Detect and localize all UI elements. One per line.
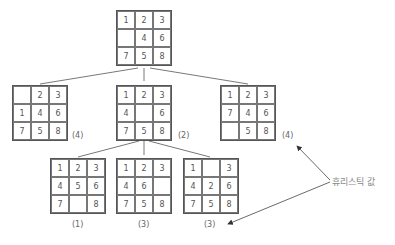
edge-root-to-right: [150, 68, 248, 84]
cell: 3: [220, 159, 238, 177]
cell: 6: [135, 177, 153, 195]
cell: 5: [135, 122, 153, 140]
cell: 6: [87, 177, 105, 195]
cell: 1: [117, 11, 135, 29]
heuristic-value: (3): [138, 220, 149, 229]
cell: [221, 122, 239, 140]
cell: 1: [184, 159, 202, 177]
cell: 5: [135, 195, 153, 213]
cell: 4: [117, 177, 135, 195]
cell: 7: [117, 195, 135, 213]
cell: 1: [51, 159, 69, 177]
heuristic-value: (1): [72, 220, 83, 229]
cell: 1: [221, 86, 239, 104]
cell: 2: [135, 159, 153, 177]
puzzle-level1-middle: 1 2 3 4 6 7 5 8: [116, 85, 172, 141]
puzzle-level2-middle: 1 2 3 4 6 7 5 8: [116, 158, 172, 214]
cell: 3: [49, 86, 67, 104]
edge-mid-to-right: [149, 141, 210, 157]
cell: 4: [184, 177, 202, 195]
cell: 8: [153, 122, 171, 140]
cell: 5: [239, 122, 257, 140]
cell: 3: [87, 159, 105, 177]
heuristic-value: (2): [178, 131, 189, 140]
cell: 7: [117, 122, 135, 140]
cell: 6: [257, 104, 275, 122]
heuristic-value: (4): [72, 131, 83, 140]
cell: [202, 159, 220, 177]
heuristic-value: (3): [204, 220, 215, 229]
cell: [69, 195, 87, 213]
cell: 8: [257, 122, 275, 140]
cell: 2: [239, 86, 257, 104]
cell: 2: [69, 159, 87, 177]
cell: 8: [153, 195, 171, 213]
cell: 6: [220, 177, 238, 195]
edge-root-to-left: [40, 68, 138, 84]
cell: 8: [153, 47, 171, 65]
cell: [13, 86, 31, 104]
cell: 3: [153, 86, 171, 104]
heuristic-value-annotation: 휴리스틱 값: [332, 175, 375, 188]
cell: 1: [117, 86, 135, 104]
cell: 7: [13, 122, 31, 140]
arrow-to-right-h: [297, 146, 330, 180]
cell: 6: [153, 104, 171, 122]
puzzle-level1-left: 2 3 1 4 6 7 5 8: [12, 85, 68, 141]
cell: 4: [31, 104, 49, 122]
cell: 2: [31, 86, 49, 104]
cell: [153, 177, 171, 195]
cell: 7: [184, 195, 202, 213]
cell: 7: [117, 47, 135, 65]
cell: 3: [257, 86, 275, 104]
cell: 5: [202, 195, 220, 213]
cell: 6: [153, 29, 171, 47]
cell: 4: [239, 104, 257, 122]
cell: 2: [202, 177, 220, 195]
cell: 1: [13, 104, 31, 122]
edge-mid-to-left: [78, 141, 139, 157]
cell: [117, 29, 135, 47]
cell: 3: [153, 159, 171, 177]
cell: 1: [117, 159, 135, 177]
cell: 7: [51, 195, 69, 213]
cell: 5: [135, 47, 153, 65]
cell: 6: [49, 104, 67, 122]
puzzle-level1-right: 1 2 3 7 4 6 5 8: [220, 85, 276, 141]
cell: 2: [135, 11, 153, 29]
puzzle-level2-left: 1 2 3 4 5 6 7 8: [50, 158, 106, 214]
cell: 7: [221, 104, 239, 122]
cell: 5: [31, 122, 49, 140]
cell: 8: [87, 195, 105, 213]
cell: 3: [153, 11, 171, 29]
cell: [135, 104, 153, 122]
diagram-canvas: 1 2 3 4 6 7 5 8 2 3 1 4 6 7 5 8 (4) 1 2 …: [0, 0, 395, 245]
arrow-to-bottom-h: [228, 182, 330, 224]
cell: 5: [69, 177, 87, 195]
cell: 4: [117, 104, 135, 122]
heuristic-value: (4): [282, 131, 293, 140]
cell: 4: [135, 29, 153, 47]
cell: 2: [135, 86, 153, 104]
cell: 8: [49, 122, 67, 140]
cell: 4: [51, 177, 69, 195]
cell: 8: [220, 195, 238, 213]
puzzle-root: 1 2 3 4 6 7 5 8: [116, 10, 172, 66]
puzzle-level2-right: 1 3 4 2 6 7 5 8: [183, 158, 239, 214]
